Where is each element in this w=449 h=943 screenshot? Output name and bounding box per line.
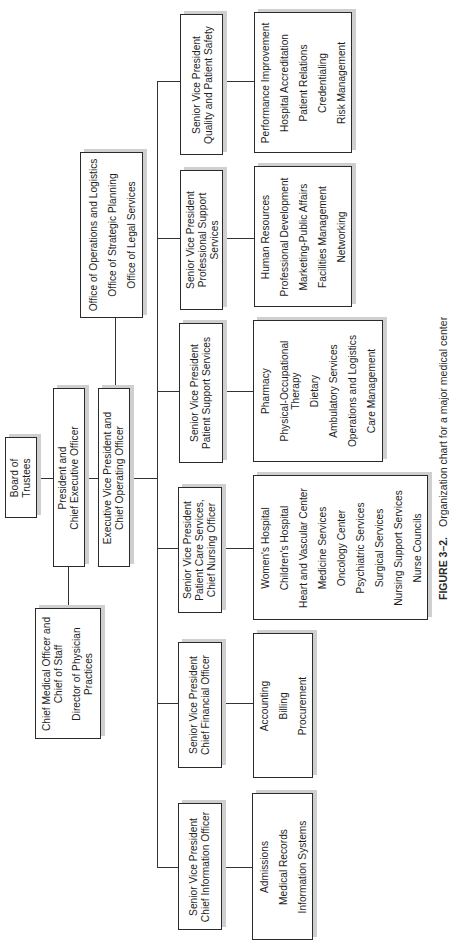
unit-item: Operations and Logistics bbox=[347, 335, 358, 447]
box-label: Professional Support bbox=[196, 193, 208, 288]
unit-item: Dietary bbox=[309, 375, 320, 407]
branch-cno bbox=[157, 548, 179, 549]
unit-item: Nurse Councils bbox=[411, 513, 422, 582]
unit-item: Performance Improvement bbox=[260, 22, 271, 143]
branch-cfo bbox=[157, 703, 179, 704]
box-label: Chief Financial Officer bbox=[200, 655, 212, 755]
unit-item: Human Resources bbox=[260, 194, 271, 278]
connector-board-ceo bbox=[37, 478, 53, 479]
connector-ceo-coo bbox=[84, 478, 98, 479]
unit-item: Credentialing bbox=[317, 52, 328, 112]
connector-pss-list bbox=[223, 391, 254, 392]
unit-item: Networking bbox=[336, 211, 347, 262]
branch-prof bbox=[157, 238, 180, 239]
unit-item: Hospital Accreditation bbox=[279, 34, 290, 132]
box-label: Chief Nursing Officer bbox=[206, 503, 218, 597]
figure-caption: FIGURE 3–2.Organization chart for a majo… bbox=[437, 317, 449, 600]
unit-item: Heart and Vascular Center bbox=[297, 488, 308, 608]
figure-label: FIGURE 3–2. bbox=[437, 537, 449, 600]
cmo-box: Chief Medical Officer and Chief of Staff… bbox=[35, 608, 101, 739]
unit-item: Information Systems bbox=[296, 820, 307, 913]
box-label: Director of Physician bbox=[71, 627, 83, 720]
connector-cfo-list bbox=[222, 703, 253, 704]
caption-text: Organization chart for a major medical c… bbox=[437, 317, 449, 527]
connector-cio-list bbox=[222, 867, 253, 868]
svp-patient-care-cno-box: Senior Vice President Patient Care Servi… bbox=[178, 487, 222, 613]
unit-item: Physical-Occupational bbox=[279, 341, 290, 442]
qps-units-box: Performance Improvement Hospital Accredi… bbox=[254, 12, 352, 153]
unit-item: Children's Hospital bbox=[278, 505, 289, 590]
branch-pss bbox=[157, 391, 179, 392]
unit-item: Women's Hospital bbox=[259, 507, 270, 589]
svp-professional-support-box: Senior Vice President Professional Suppo… bbox=[180, 170, 223, 310]
box-label: Senior Vice President bbox=[189, 344, 201, 442]
unit-item: Risk Management bbox=[336, 41, 347, 123]
offices-box: Office of Operations and Logistics Offic… bbox=[80, 152, 143, 318]
evp-coo-box: Executive Vice President and Chief Opera… bbox=[98, 388, 130, 567]
unit-item: Accounting bbox=[259, 680, 270, 730]
unit-item: Medical Records bbox=[277, 829, 288, 905]
cno-units-box: Women's Hospital Children's Hospital Hea… bbox=[253, 475, 428, 620]
box-label: Senior Vice President bbox=[184, 191, 196, 289]
box-label: Patient Care Services, bbox=[194, 499, 206, 600]
unit-item: Care Management bbox=[366, 349, 377, 433]
trunk-line bbox=[157, 81, 158, 868]
unit-item: Admissions bbox=[258, 840, 269, 892]
president-ceo-box: President and Chief Executive Officer bbox=[53, 388, 85, 567]
unit-item: Therapy bbox=[290, 372, 301, 409]
box-label: Services bbox=[208, 220, 220, 259]
box-label: Office of Legal Services bbox=[125, 181, 136, 288]
unit-item: Nursing Support Services bbox=[392, 490, 403, 606]
box-label: Senior Vice President bbox=[182, 501, 194, 599]
unit-item: Medicine Services bbox=[316, 506, 327, 589]
box-label: Office of Strategic Planning bbox=[106, 173, 117, 296]
cio-units-box: Admissions Medical Records Information S… bbox=[252, 793, 313, 940]
unit-item: Oncology Center bbox=[335, 509, 346, 585]
board-of-trustees-box: Board of Trustees bbox=[5, 437, 37, 518]
unit-item: Marketing-Public Affairs bbox=[298, 183, 309, 290]
pss-units-box: Pharmacy Physical-Occupational Therapy D… bbox=[253, 320, 383, 462]
box-label: Quality and Patient Safety bbox=[202, 26, 214, 144]
connector-ceo-cmo bbox=[68, 567, 69, 608]
cfo-units-box: Accounting Billing Procurement bbox=[253, 633, 313, 778]
box-label: Chief Medical Officer and bbox=[41, 616, 53, 730]
unit-item: Pharmacy bbox=[260, 368, 271, 414]
unit-item: Professional Development bbox=[279, 177, 290, 296]
box-label: Chief Information Officer bbox=[200, 811, 212, 921]
box-label: Chief Executive Officer bbox=[69, 426, 81, 529]
box-label: Senior Vice President bbox=[188, 818, 200, 916]
box-label: Senior Vice President bbox=[190, 36, 202, 134]
svp-quality-patient-safety-box: Senior Vice President Quality and Patien… bbox=[180, 14, 223, 155]
branch-qps bbox=[157, 81, 180, 82]
unit-item: Patient Relations bbox=[298, 44, 309, 121]
unit-item: Psychiatric Services bbox=[354, 502, 365, 593]
connector-coo-trunk bbox=[130, 478, 158, 479]
unit-item: Procurement bbox=[297, 676, 308, 734]
box-label: Executive Vice President and bbox=[102, 411, 114, 543]
box-label: Trustees bbox=[21, 458, 33, 497]
svp-cio-box: Senior Vice President Chief Information … bbox=[178, 803, 222, 930]
box-label: Chief Operating Officer bbox=[114, 426, 126, 530]
box-label: President and bbox=[57, 446, 69, 509]
branch-cio bbox=[157, 867, 179, 868]
connector-qps-list bbox=[223, 81, 254, 82]
connector-prof-list bbox=[223, 238, 254, 239]
box-label: Senior Vice President bbox=[188, 656, 200, 754]
unit-item: Ambulatory Services bbox=[328, 344, 339, 437]
unit-item: Facilities Management bbox=[317, 186, 328, 288]
box-label: Practices bbox=[83, 653, 95, 695]
connector-coo-offices bbox=[115, 318, 116, 388]
box-label: Patient Support Services bbox=[201, 337, 213, 449]
prof-units-box: Human Resources Professional Development… bbox=[254, 166, 352, 307]
box-label: Board of bbox=[9, 458, 21, 497]
connector-cno-list bbox=[222, 548, 253, 549]
box-label: Chief of Staff bbox=[53, 644, 65, 703]
svp-patient-support-box: Senior Vice President Patient Support Se… bbox=[179, 323, 223, 463]
unit-item: Surgical Services bbox=[373, 508, 384, 587]
unit-item: Billing bbox=[278, 692, 289, 719]
svp-cfo-box: Senior Vice President Chief Financial Of… bbox=[178, 642, 222, 768]
box-label: Office of Operations and Logistics bbox=[87, 159, 98, 312]
